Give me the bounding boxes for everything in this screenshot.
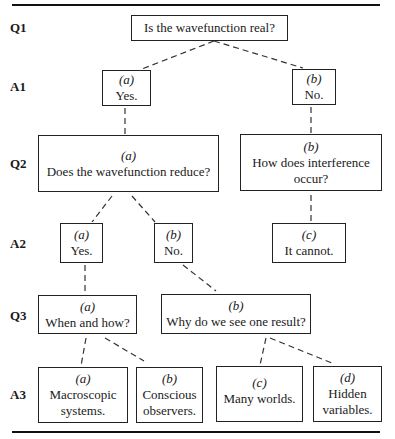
node-text: It cannot. bbox=[284, 243, 333, 259]
node-tag: (b) bbox=[303, 139, 318, 155]
node-tag: (c) bbox=[302, 227, 316, 243]
node-a1b: (b) No. bbox=[292, 69, 336, 105]
node-text: Is the wavefunction real? bbox=[144, 20, 275, 36]
node-tag: (b) bbox=[166, 227, 181, 243]
node-a3c: (c) Many worlds. bbox=[216, 366, 303, 422]
node-text: No. bbox=[304, 87, 323, 103]
edge-q3b-a3d bbox=[270, 338, 332, 363]
edge-q3a-a3a bbox=[81, 338, 86, 366]
node-a3b: (b) Conscious observers. bbox=[136, 367, 203, 423]
level-label-q3: Q3 bbox=[10, 308, 27, 324]
node-q3a: (a) When and how? bbox=[38, 295, 137, 334]
node-text-line1: Macroscopic bbox=[49, 387, 116, 403]
node-tag: (b) bbox=[306, 71, 321, 87]
node-tag: (a) bbox=[74, 227, 89, 243]
level-label-q2: Q2 bbox=[10, 156, 27, 172]
node-a3d: (d) Hidden variables. bbox=[313, 366, 382, 422]
node-q2b: (b) How does interference occur? bbox=[240, 134, 382, 191]
level-label-q1: Q1 bbox=[10, 20, 27, 36]
node-a2c: (c) It cannot. bbox=[272, 223, 346, 263]
node-text: No. bbox=[164, 243, 183, 259]
level-label-a3: A3 bbox=[10, 387, 26, 403]
node-tag: (b) bbox=[162, 371, 177, 387]
node-tag: (d) bbox=[340, 370, 355, 386]
node-q3b: (b) Why do we see one result? bbox=[161, 294, 311, 334]
node-tag: (a) bbox=[119, 72, 134, 88]
node-tag: (a) bbox=[121, 148, 136, 164]
node-text-line2: systems. bbox=[61, 403, 105, 419]
node-tag: (c) bbox=[252, 375, 266, 391]
node-text: Why do we see one result? bbox=[166, 314, 306, 330]
node-text-line1: How does interference bbox=[252, 155, 370, 171]
node-text-line2: occur? bbox=[294, 171, 329, 187]
node-a2a: (a) Yes. bbox=[60, 223, 103, 263]
node-text-line1: Hidden bbox=[328, 386, 366, 402]
node-text: Yes. bbox=[115, 88, 137, 104]
edge-q2a-a2a bbox=[92, 196, 112, 222]
node-a1a: (a) Yes. bbox=[102, 70, 151, 106]
node-text: Yes. bbox=[70, 243, 92, 259]
node-a3a: (a) Macroscopic systems. bbox=[38, 367, 128, 423]
node-text: When and how? bbox=[45, 315, 129, 331]
node-text-line1: Conscious bbox=[142, 387, 196, 403]
level-label-a2: A2 bbox=[10, 236, 26, 252]
level-label-a1: A1 bbox=[10, 79, 26, 95]
node-text-line2: variables. bbox=[322, 402, 372, 418]
node-a2b: (b) No. bbox=[154, 223, 193, 263]
node-q2a: (a) Does the wavefunction reduce? bbox=[38, 135, 219, 192]
node-text: Does the wavefunction reduce? bbox=[47, 164, 211, 180]
edge-q3a-a3b bbox=[105, 338, 144, 361]
node-q1: Is the wavefunction real? bbox=[131, 15, 288, 41]
node-text: Many worlds. bbox=[223, 391, 295, 407]
node-tag: (b) bbox=[228, 298, 243, 314]
edge-q1-a1a bbox=[142, 41, 214, 69]
node-tag: (a) bbox=[75, 371, 90, 387]
edge-q3b-a3c bbox=[260, 338, 266, 365]
node-tag: (a) bbox=[80, 299, 95, 315]
edge-a2b-q3b bbox=[183, 265, 216, 291]
node-text-line2: observers. bbox=[143, 403, 196, 419]
edge-q2a-a2b bbox=[132, 196, 155, 222]
edge-q1-a1b bbox=[214, 41, 303, 68]
